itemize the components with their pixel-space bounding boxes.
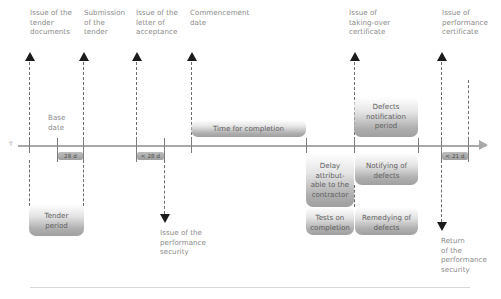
milestone-label-issue-taking-over-certificate: Issue of taking-over certificate — [349, 8, 405, 37]
dashed-line-defects-split — [354, 185, 355, 207]
up-arrow-issue-tender-documents — [25, 52, 35, 61]
duration-cap-lt21d-right — [468, 150, 469, 162]
milestone-label-issue-tender-documents: Issue of the tender documents — [30, 8, 88, 37]
axis-note-base-date: Base date — [48, 113, 88, 132]
up-arrow-commencement-date — [187, 52, 197, 61]
milestone-label-commencement-date: Commencement date — [190, 8, 270, 27]
dashed-line-submission-of-tender — [83, 62, 84, 145]
dashed-line-tender-period-right — [83, 160, 84, 206]
milestone-label-issue-letter-acceptance: Issue of the letter of acceptance — [136, 8, 194, 37]
milestone-label-issue-performance-certificate: Issue of performance certificate — [442, 8, 500, 37]
duration-lt-21d: < 21 d — [442, 152, 468, 160]
bar-time-for-completion: Time for completion — [191, 120, 306, 137]
footer-divider — [30, 287, 470, 288]
up-arrow-issue-taking-over-certificate — [350, 52, 360, 61]
dashed-line-return-performance-security — [441, 160, 442, 222]
dashed-line-tender-period-left — [29, 160, 30, 206]
timeline-diagram: Issue of the tender documents Submission… — [0, 0, 501, 299]
up-arrow-issue-performance-certificate — [437, 52, 447, 61]
axis-tick-end-time-for-completion — [306, 138, 307, 153]
up-arrow-issue-letter-acceptance — [132, 52, 142, 61]
bar-label-tender-period: Tender period — [29, 211, 84, 230]
milestone-label-issue-performance-security: Issue of the performance security — [160, 228, 226, 257]
duration-28d: 28 d — [58, 152, 83, 160]
bar-remedying-of-defects: Remedying of defects — [355, 207, 418, 235]
dashed-line-issue-letter-acceptance — [136, 62, 137, 145]
milestone-label-return-performance-security: Return of the performance security — [441, 236, 499, 274]
bar-tender-period: Tender period — [29, 204, 84, 236]
bar-label-delay-attributable-contractor: Delay attribut- able to the contractor — [306, 161, 354, 199]
up-arrow-submission-of-tender — [79, 52, 89, 61]
dashed-line-return-performance-security-top — [468, 80, 469, 145]
down-arrow-return-performance-security — [437, 222, 447, 231]
timeline-axis — [18, 145, 486, 147]
bar-defects-notification-period: Defects notification period — [354, 97, 418, 137]
axis-tick-end-defects-notification — [418, 138, 419, 153]
bar-label-tests-on-completion: Tests on completion — [306, 213, 354, 232]
axis-tick-issue-taking-over-certificate — [354, 138, 355, 153]
bar-delay-attributable-contractor: Delay attribut- able to the contractor — [306, 153, 354, 207]
dashed-line-issue-tender-documents — [29, 62, 30, 145]
bar-label-notifying-of-defects: Notifying of defects — [355, 161, 418, 180]
bar-label-defects-notification-period: Defects notification period — [354, 102, 418, 131]
axis-label-t: T — [9, 140, 13, 147]
timeline-axis-arrowhead — [479, 140, 488, 150]
bar-notifying-of-defects: Notifying of defects — [355, 153, 418, 185]
milestone-label-submission-of-tender: Submission of the tender — [84, 8, 136, 37]
duration-lt-28d: < 28 d — [137, 152, 164, 160]
axis-tick-commencement-date — [191, 138, 192, 153]
bar-tests-on-completion: Tests on completion — [306, 207, 354, 235]
down-arrow-issue-performance-security — [160, 214, 170, 223]
bar-label-remedying-of-defects: Remedying of defects — [355, 213, 418, 232]
axis-tick-issue-tender-documents — [29, 138, 30, 153]
dashed-line-issue-performance-certificate — [441, 62, 442, 145]
dashed-line-issue-performance-security — [164, 160, 165, 214]
bar-label-time-for-completion: Time for completion — [191, 124, 306, 134]
